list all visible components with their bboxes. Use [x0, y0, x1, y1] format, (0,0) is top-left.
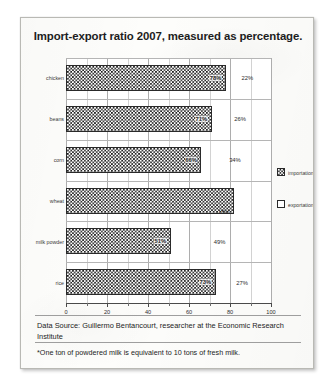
bar-row: corn66%34% — [66, 140, 271, 181]
bar-importation-beans: 71% — [66, 106, 212, 132]
bar-value-importation: 66% — [185, 157, 198, 163]
bar-value-exportation: 27% — [236, 280, 248, 286]
bar-value-importation: 71% — [195, 116, 208, 122]
x-tick-40 — [148, 303, 149, 307]
bar-value-exportation: 26% — [234, 116, 246, 122]
x-tick-80 — [230, 303, 231, 307]
legend-swatch-importation-icon — [277, 168, 285, 176]
x-tick-70 — [210, 303, 211, 306]
bar-value-importation: 73% — [199, 279, 212, 285]
footnote-text: *One ton of powdered milk is equivalent … — [37, 348, 299, 358]
footer-divider-top — [35, 315, 301, 316]
bar-row: chicken78%22% — [66, 58, 271, 99]
bar-value-importation: 78% — [209, 75, 222, 81]
category-label-rice: rice — [20, 280, 64, 286]
legend-item-exportation: exportation — [277, 200, 314, 210]
bar-importation-corn: 66% — [66, 147, 201, 173]
bar-row: rice73%27% — [66, 262, 271, 303]
bar-value-exportation: 18% — [218, 209, 230, 215]
bar-row: wheat18% — [66, 181, 271, 222]
x-tick-10 — [87, 303, 88, 306]
category-label-wheat: wheat — [20, 198, 64, 204]
bar-row: milk powder51%49% — [66, 221, 271, 262]
x-tick-90 — [251, 303, 252, 306]
category-label-beans: beans — [20, 116, 64, 122]
x-tick-100 — [271, 303, 272, 307]
legend-swatch-exportation-icon — [277, 200, 285, 208]
category-label-corn: corn — [20, 157, 64, 163]
x-tick-0 — [66, 303, 67, 307]
bar-importation-rice: 73% — [66, 269, 216, 295]
plot-area: chicken78%22%beans71%26%corn66%34%wheat1… — [66, 58, 271, 303]
footer-divider-bottom — [35, 342, 301, 343]
chart-title: Import-export ratio 2007, measured as pe… — [21, 30, 314, 42]
x-tick-30 — [128, 303, 129, 306]
bar-importation-milk-powder: 51% — [66, 228, 171, 254]
legend-item-importation: importation — [277, 168, 314, 178]
gridline-v-100 — [271, 58, 272, 303]
bar-row: beans71%26% — [66, 99, 271, 140]
bar-value-exportation: 22% — [241, 75, 253, 81]
bar-value-exportation: 49% — [214, 239, 226, 245]
bar-value-importation: 51% — [154, 238, 167, 244]
screenshot-root: Import-export ratio 2007, measured as pe… — [0, 0, 333, 383]
x-tick-60 — [189, 303, 190, 307]
chart-sheet: Import-export ratio 2007, measured as pe… — [20, 17, 314, 369]
x-tick-50 — [169, 303, 170, 306]
category-label-chicken: chicken — [20, 75, 64, 81]
x-tick-20 — [107, 303, 108, 307]
category-label-milk-powder: milk powder — [20, 239, 64, 245]
legend-label-importation: importation — [288, 170, 314, 176]
chart-legend: importation exportation — [277, 168, 314, 232]
bar-value-exportation: 34% — [229, 157, 241, 163]
bar-importation-wheat — [66, 188, 234, 214]
bar-importation-chicken: 78% — [66, 65, 226, 91]
data-source-text: Data Source: Guillermo Bentancourt, rese… — [37, 321, 297, 342]
legend-label-exportation: exportation — [288, 202, 314, 208]
